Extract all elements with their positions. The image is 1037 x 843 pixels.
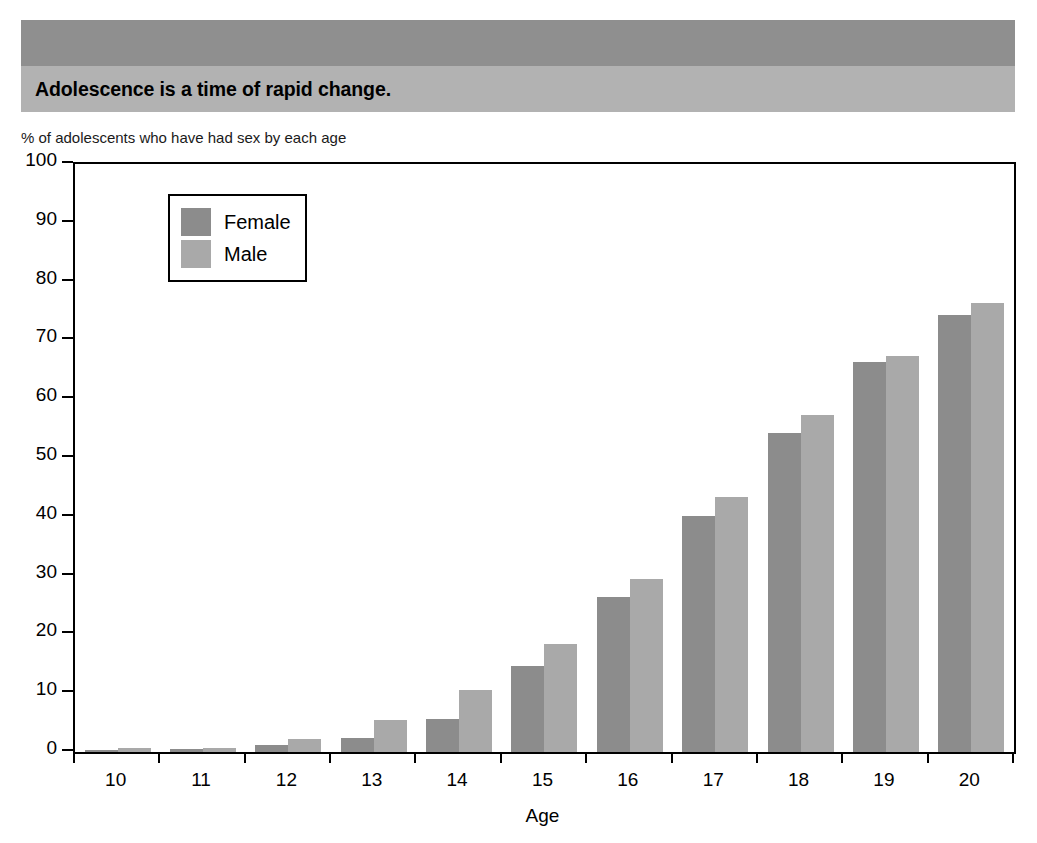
legend-swatch-female-icon bbox=[181, 208, 211, 236]
banner-title-band: Adolescence is a time of rapid change. bbox=[21, 66, 1015, 112]
banner-top-band bbox=[21, 20, 1015, 66]
x-axis-tick-label: 20 bbox=[959, 769, 980, 790]
x-axis-tick-mark bbox=[329, 752, 331, 763]
x-axis-tick-label: 11 bbox=[191, 769, 211, 790]
bar-female-age-19 bbox=[853, 362, 886, 752]
x-axis-tick-mark bbox=[73, 752, 75, 763]
y-axis-tick-mark bbox=[62, 455, 73, 457]
bar-group bbox=[331, 164, 416, 752]
x-axis-tick: 14 bbox=[414, 752, 499, 792]
bar-group bbox=[416, 164, 501, 752]
x-axis-tick-mark bbox=[585, 752, 587, 763]
y-axis-tick-label: 60 bbox=[36, 385, 57, 404]
x-axis-tick-label: 17 bbox=[703, 769, 724, 790]
x-axis-tick-mark bbox=[756, 752, 758, 763]
page-title: Adolescence is a time of rapid change. bbox=[21, 78, 391, 101]
bar-female-age-15 bbox=[511, 666, 544, 752]
x-axis-tick-mark bbox=[671, 752, 673, 763]
x-axis-tick-label: 10 bbox=[105, 769, 126, 790]
bar-group bbox=[673, 164, 758, 752]
bar-male-age-14 bbox=[459, 690, 492, 752]
legend-item-male: Male bbox=[181, 238, 291, 270]
x-axis-tick-mark bbox=[244, 752, 246, 763]
bar-group bbox=[758, 164, 843, 752]
y-axis-tick-label: 70 bbox=[36, 326, 57, 345]
bar-group bbox=[929, 164, 1014, 752]
bar-chart: 0102030405060708090100 Female Male 10111… bbox=[0, 150, 1037, 843]
y-axis-tick-label: 20 bbox=[36, 620, 57, 639]
legend-label-male: Male bbox=[224, 244, 267, 264]
x-axis-tick: 12 bbox=[244, 752, 329, 792]
y-axis-tick-mark bbox=[62, 690, 73, 692]
x-axis-title: Age bbox=[73, 805, 1012, 827]
bar-group bbox=[587, 164, 672, 752]
legend-label-female: Female bbox=[224, 212, 291, 232]
x-axis-tick-label: 12 bbox=[276, 769, 297, 790]
bar-male-age-12 bbox=[288, 739, 321, 752]
y-axis-tick-mark bbox=[62, 220, 73, 222]
x-axis-tick-mark-end bbox=[1012, 752, 1014, 763]
chart-subtitle: % of adolescents who have had sex by eac… bbox=[21, 129, 346, 146]
plot-area: Female Male bbox=[73, 162, 1016, 754]
x-axis-tick-label: 13 bbox=[361, 769, 382, 790]
x-axis-tick-label: 15 bbox=[532, 769, 553, 790]
y-axis-tick-mark bbox=[62, 161, 73, 163]
x-axis-tick: 13 bbox=[329, 752, 414, 792]
bar-group bbox=[75, 164, 160, 752]
legend-swatch-male-icon bbox=[181, 240, 211, 268]
x-axis-tick-mark bbox=[841, 752, 843, 763]
y-axis-tick-label: 90 bbox=[36, 209, 57, 228]
x-axis-tick: 20 bbox=[927, 752, 1012, 792]
x-axis-tick: 11 bbox=[158, 752, 243, 792]
bar-male-age-15 bbox=[544, 644, 577, 752]
bar-female-age-16 bbox=[597, 597, 630, 752]
y-axis-tick-mark bbox=[62, 631, 73, 633]
x-axis-tick-label: 18 bbox=[788, 769, 809, 790]
x-axis-tick: 17 bbox=[671, 752, 756, 792]
bar-female-age-18 bbox=[768, 433, 801, 752]
bar-male-age-20 bbox=[971, 303, 1004, 752]
bar-female-age-14 bbox=[426, 719, 459, 752]
bar-group bbox=[502, 164, 587, 752]
x-axis: 1011121314151617181920 bbox=[73, 752, 1012, 792]
y-axis-tick-mark bbox=[62, 514, 73, 516]
y-axis-tick-mark bbox=[62, 573, 73, 575]
bar-group bbox=[843, 164, 928, 752]
y-axis-tick-mark bbox=[62, 337, 73, 339]
x-axis-tick: 18 bbox=[756, 752, 841, 792]
x-axis-tick-mark bbox=[927, 752, 929, 763]
bar-female-age-20 bbox=[938, 315, 971, 752]
x-axis-tick-mark bbox=[158, 752, 160, 763]
y-axis-tick-mark bbox=[62, 749, 73, 751]
x-axis-tick: 16 bbox=[585, 752, 670, 792]
bar-male-age-18 bbox=[801, 415, 834, 753]
y-axis-tick-mark bbox=[62, 279, 73, 281]
x-axis-tick-label: 14 bbox=[447, 769, 468, 790]
bar-female-age-12 bbox=[255, 745, 288, 752]
header-banner: Adolescence is a time of rapid change. bbox=[21, 20, 1015, 112]
y-axis-tick-label: 30 bbox=[36, 562, 57, 581]
x-axis-tick-label: 16 bbox=[617, 769, 638, 790]
x-axis-tick-label: 19 bbox=[873, 769, 894, 790]
bar-female-age-13 bbox=[341, 738, 374, 752]
bar-male-age-17 bbox=[715, 497, 748, 752]
chart-legend: Female Male bbox=[168, 194, 307, 282]
bar-male-age-13 bbox=[374, 720, 407, 752]
bar-female-age-17 bbox=[682, 516, 715, 752]
x-axis-tick: 10 bbox=[73, 752, 158, 792]
y-axis-tick-label: 0 bbox=[46, 738, 57, 757]
bar-male-age-19 bbox=[886, 356, 919, 752]
y-axis-tick-label: 40 bbox=[36, 503, 57, 522]
x-axis-tick-mark bbox=[414, 752, 416, 763]
x-axis-tick: 19 bbox=[841, 752, 926, 792]
legend-item-female: Female bbox=[181, 206, 291, 238]
y-axis-tick-label: 80 bbox=[36, 268, 57, 287]
x-axis-tick: 15 bbox=[500, 752, 585, 792]
y-axis-tick-mark bbox=[62, 396, 73, 398]
bar-male-age-16 bbox=[630, 579, 663, 752]
x-axis-tick-mark bbox=[500, 752, 502, 763]
y-axis-tick-label: 100 bbox=[25, 150, 57, 169]
y-axis-tick-label: 50 bbox=[36, 444, 57, 463]
y-axis-tick-label: 10 bbox=[36, 679, 57, 698]
